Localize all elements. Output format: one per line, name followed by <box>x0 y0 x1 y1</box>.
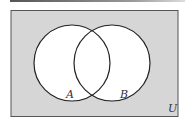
venn-diagram: A B U <box>0 0 185 124</box>
set-a-label: A <box>65 88 74 101</box>
set-b-label: B <box>119 88 128 101</box>
universe-label: U <box>168 102 178 115</box>
